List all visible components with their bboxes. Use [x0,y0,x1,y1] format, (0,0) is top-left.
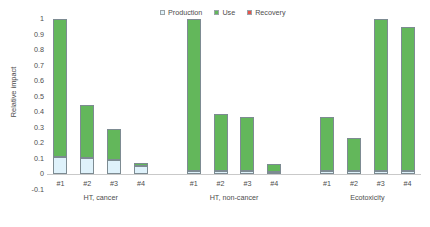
bar-segment-use [240,117,254,170]
y-axis-tick: 0 [18,170,44,177]
bar-segment-use [107,129,121,160]
bar-segment-use [401,27,415,172]
x-axis-tick-labels: #1#2#3#4#1#2#3#4#1#2#3#4 [47,178,421,190]
bar-12[interactable] [401,27,415,174]
legend-item-production[interactable]: Production [160,9,202,16]
bar-segment-use [214,114,228,171]
y-axis-tick: 0.5 [18,93,44,100]
y-axis-tick-labels: 10.90.80.70.60.50.40.30.20.10-0.1 [18,14,44,186]
y-axis-tick: -0.1 [18,186,44,193]
x-axis-tick: #3 [367,178,395,190]
bar-3[interactable] [107,129,121,174]
bar-8[interactable] [267,164,281,174]
square-swatch-icon [160,10,165,15]
x-axis-tick: #4 [127,178,155,190]
square-swatch-icon [247,10,252,15]
bar-segment-use [320,117,334,171]
bar-5[interactable] [187,19,201,174]
y-axis-tick: 0.3 [18,124,44,131]
bar-1[interactable] [53,19,67,174]
x-axis-tick: #4 [260,178,288,190]
legend-item-recovery[interactable]: Recovery [247,9,285,16]
y-axis-tick: 0.7 [18,62,44,69]
bar-segment-use [347,138,361,171]
x-axis-tick: #3 [100,178,128,190]
bar-6[interactable] [214,114,228,174]
bar-segment-production [134,166,148,174]
x-axis-tick: #2 [340,178,368,190]
bar-segment-production [80,158,94,174]
legend-item-use[interactable]: Use [214,9,235,16]
bar-segment-production [107,160,121,174]
x-axis-tick: #2 [73,178,101,190]
y-axis-tick: 0.4 [18,108,44,115]
x-axis-group-label: Ecotoxicity [350,192,384,204]
legend-label-recovery: Recovery [255,9,285,16]
x-axis-group-label: HT, non-cancer [210,192,259,204]
y-axis-tick: 1 [18,15,44,22]
bar-segment-use [187,19,201,171]
x-axis-tick: #3 [233,178,261,190]
y-axis-tick: 0.2 [18,139,44,146]
x-axis-group-labels: HT, cancerHT, non-cancerEcotoxicity [47,192,421,204]
x-axis-line [47,174,421,175]
bar-7[interactable] [240,117,254,174]
x-axis-group-label: HT, cancer [83,192,117,204]
bar-segment-use [53,19,67,157]
x-axis-tick: #1 [46,178,74,190]
bar-4[interactable] [134,163,148,174]
chart-legend: Production Use Recovery [160,7,286,19]
y-axis-tick: 0.1 [18,155,44,162]
legend-label-production: Production [168,9,202,16]
x-axis-tick: #1 [180,178,208,190]
bar-segment-use [80,105,94,158]
bar-10[interactable] [347,138,361,174]
y-axis-tick: 0.9 [18,31,44,38]
x-axis-tick: #4 [394,178,422,190]
x-axis-tick: #2 [207,178,235,190]
legend-label-use: Use [222,9,235,16]
x-axis-tick: #1 [313,178,341,190]
bar-segment-use [374,19,388,171]
bar-segment-use [267,164,281,172]
bar-9[interactable] [320,117,334,174]
y-axis-tick: 0.6 [18,77,44,84]
y-axis-tick: 0.8 [18,46,44,53]
relative-impact-stacked-bar-chart: Production Use Recovery Relative impact … [0,0,430,227]
plot-area [47,19,421,189]
square-swatch-icon [214,10,219,15]
bar-segment-production [53,157,67,174]
bar-2[interactable] [80,105,94,174]
bar-11[interactable] [374,19,388,174]
